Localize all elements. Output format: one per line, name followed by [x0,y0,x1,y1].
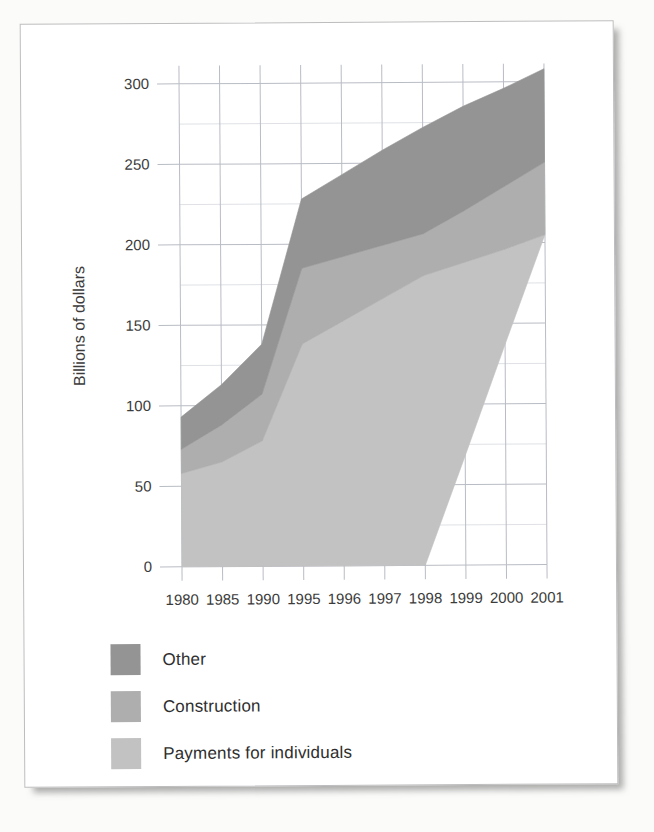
scanned-page: 050100150200250300 198019851990199519961… [20,20,619,788]
x-tick-label: 1995 [287,590,320,607]
legend-item: Construction [111,681,551,731]
legend-swatch [111,691,141,722]
y-tick-label: 300 [124,75,149,92]
y-tick-label: 150 [125,317,150,334]
x-tick-label: 1997 [368,589,401,606]
x-axis-ticks: 1980198519901995199619971998199920002001 [165,565,564,608]
legend-label: Construction [163,696,261,717]
y-axis-ticks: 050100150200250300 [124,75,182,575]
chart-legend: OtherConstructionPayments for individual… [110,634,551,778]
area-series-layer [179,69,547,567]
x-tick-label: 1990 [247,590,280,607]
y-axis-title: Billions of dollars [70,266,88,386]
y-tick-label: 250 [124,156,149,173]
legend-label: Payments for individuals [163,742,352,763]
legend-item: Other [110,634,550,684]
legend-swatch [111,738,141,769]
y-tick-label: 0 [144,558,152,575]
y-tick-label: 50 [135,478,152,495]
stacked-area-chart: 050100150200250300 198019851990199519961… [21,21,617,625]
y-tick-label: 200 [125,236,150,253]
x-tick-label: 1996 [328,590,361,607]
x-tick-label: 2001 [530,589,563,606]
legend-item: Payments for individuals [111,728,551,778]
legend-swatch [110,644,140,675]
legend-label: Other [162,649,206,669]
x-tick-label: 2000 [490,589,523,606]
x-tick-label: 1980 [165,591,198,608]
x-tick-label: 1985 [206,590,239,607]
page-inner: 050100150200250300 198019851990199519961… [21,21,618,787]
chart-plot-area: 050100150200250300 198019851990199519961… [21,21,617,625]
y-tick-label: 100 [126,397,151,414]
x-tick-label: 1998 [409,589,442,606]
x-tick-label: 1999 [449,589,482,606]
